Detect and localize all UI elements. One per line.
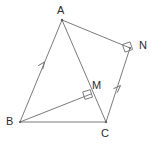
geometry-canvas [0, 0, 161, 144]
parallel-mark-BA [39, 62, 45, 69]
geometry-figure: A B C M N [0, 0, 161, 144]
vertex-dot-C [105, 121, 107, 123]
right-angle-at-M [83, 90, 93, 100]
point-label-N: N [139, 40, 147, 51]
point-label-C: C [101, 128, 109, 139]
vertex-dot-A [61, 19, 63, 21]
vertex-dot-B [19, 121, 21, 123]
point-label-M: M [92, 80, 101, 91]
point-label-A: A [57, 5, 64, 16]
point-label-B: B [6, 116, 13, 127]
segment-AB [20, 20, 62, 122]
segment-CN [106, 48, 130, 122]
vertex-dot-N [129, 47, 131, 49]
segment-BM [20, 94, 91, 122]
